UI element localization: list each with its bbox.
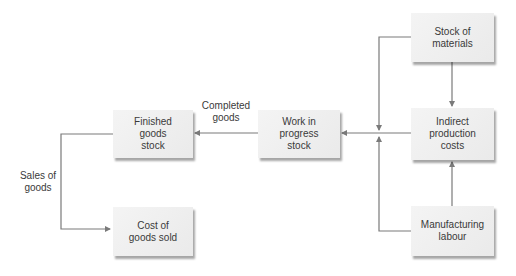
arrow-materials-to-junction — [379, 37, 411, 130]
edge-label-completed-goods: Completed goods — [196, 100, 256, 124]
node-stock-of-materials: Stock of materials — [411, 13, 494, 62]
arrow-labour-to-junction — [379, 137, 411, 231]
node-manufacturing-labour: Manufacturing labour — [411, 206, 494, 256]
node-work-in-progress-stock: Work in progress stock — [258, 110, 340, 158]
node-indirect-production-costs: Indirect production costs — [411, 108, 494, 160]
node-cost-of-goods-sold: Cost of goods sold — [113, 207, 193, 256]
edge-label-sales-of-goods: Sales of goods — [12, 170, 64, 194]
arrow-sales-of-goods — [61, 134, 113, 229]
node-finished-goods-stock: Finished goods stock — [113, 110, 193, 158]
